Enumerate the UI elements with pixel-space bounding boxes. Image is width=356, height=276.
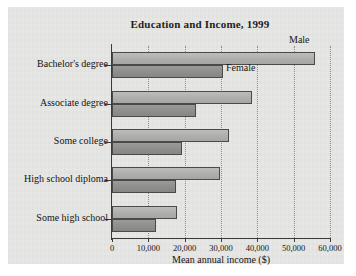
x-tick-60000	[330, 238, 331, 242]
category-label-1: Associate degree	[0, 97, 108, 108]
series-annotation-female: Female	[226, 62, 255, 73]
category-label-4: Some high school	[0, 212, 108, 223]
gridline-60000	[330, 46, 331, 238]
bar-male-1	[112, 91, 252, 104]
category-label-2: Some college	[0, 135, 108, 146]
bar-male-4	[112, 206, 177, 219]
x-tick-20000	[185, 238, 186, 242]
bar-female-3	[112, 180, 176, 193]
bar-female-2	[112, 142, 182, 155]
bar-female-4	[112, 219, 156, 232]
x-tick-label-60000: 60,000	[307, 243, 353, 253]
bar-male-3	[112, 167, 220, 180]
x-tick-40000	[257, 238, 258, 242]
x-axis-title: Mean annual income ($)	[112, 254, 330, 265]
x-tick-50000	[294, 238, 295, 242]
category-label-3: High school diploma	[0, 173, 108, 184]
x-tick-30000	[221, 238, 222, 242]
figure-root: Education and Income, 1999 010,00020,000…	[0, 0, 356, 276]
x-tick-0	[112, 238, 113, 242]
gridline-50000	[294, 46, 295, 238]
bar-female-0	[112, 65, 223, 78]
gridline-40000	[257, 46, 258, 238]
series-annotation-male: Male	[289, 34, 310, 45]
category-label-0: Bachelor's degree	[0, 58, 108, 69]
bar-male-0	[112, 52, 315, 65]
bar-male-2	[112, 129, 229, 142]
x-tick-10000	[148, 238, 149, 242]
chart-title: Education and Income, 1999	[0, 18, 356, 30]
bar-female-1	[112, 104, 196, 117]
